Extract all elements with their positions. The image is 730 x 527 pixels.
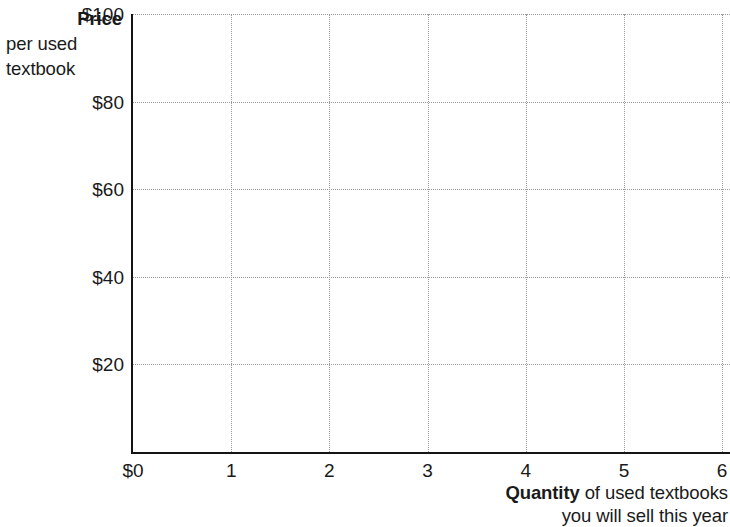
plot-area: $20$40$60$80$100 123456 [133,14,730,452]
x-axis-caption: Quantity of used textbooks you will sell… [428,481,728,527]
x-axis-tick-label: 4 [520,461,531,480]
gridline-vertical [722,14,723,452]
gridline-horizontal [133,277,730,278]
x-axis-line [131,452,730,454]
gridline-vertical [329,14,330,452]
x-axis-tick-label: 2 [324,461,335,480]
y-axis-tick-label: $20 [92,355,124,374]
y-axis-tick-label: $60 [92,180,124,199]
x-axis-caption-keyword: Quantity [505,482,579,503]
x-axis-caption-rest: of used textbooks [580,482,728,503]
y-axis-caption-line-2: per used [6,31,122,56]
gridline-horizontal [133,14,730,15]
origin-tick-label: $0 [122,461,143,480]
x-axis-tick-label: 1 [226,461,237,480]
x-axis-tick-label: 6 [717,461,728,480]
y-axis-caption-line-3: textbook [6,56,122,81]
gridline-vertical [428,14,429,452]
gridline-vertical [231,14,232,452]
gridline-vertical [526,14,527,452]
y-axis-line [131,14,133,452]
gridline-horizontal [133,102,730,103]
gridline-horizontal [133,364,730,365]
gridline-horizontal [133,189,730,190]
gridline-vertical [624,14,625,452]
y-axis-tick-label: $40 [92,267,124,286]
y-axis-tick-label: $80 [92,92,124,111]
y-axis-tick-label: $100 [82,5,124,24]
x-axis-caption-line-2: you will sell this year [428,504,728,527]
x-axis-tick-label: 5 [619,461,630,480]
chart-figure: Price per used textbook $20$40$60$80$100… [0,0,730,527]
x-axis-tick-label: 3 [422,461,433,480]
